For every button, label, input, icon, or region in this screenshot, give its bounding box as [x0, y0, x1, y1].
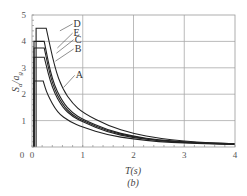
- y-tick-label: 4: [22, 36, 27, 46]
- y-tick-label: 5: [22, 10, 27, 20]
- y-tick-label: 2: [22, 89, 27, 99]
- y-tick-label: 3: [22, 63, 27, 73]
- origin-label: 0: [20, 150, 25, 160]
- x-tick-label: 4: [233, 150, 238, 160]
- x-tick-label: 2: [131, 150, 136, 160]
- x-axis-title: T(s): [125, 165, 142, 177]
- x-tick-label: 1: [81, 150, 86, 160]
- x-tick-label: 3: [182, 150, 187, 160]
- curve-label-b: B: [75, 43, 82, 54]
- y-tick-label: 1: [22, 116, 27, 126]
- figure-subtitle: (b): [127, 177, 139, 189]
- label-leader-a: [63, 75, 74, 87]
- curve-labels: DECBA: [55, 18, 83, 88]
- curve-c: [34, 48, 235, 147]
- curves: [34, 28, 235, 147]
- label-leader-d: [60, 24, 73, 31]
- y-axis-title-slash: /a: [10, 76, 21, 85]
- label-leader-e: [57, 33, 72, 48]
- label-leader-b: [55, 49, 73, 61]
- curve-label-a: A: [76, 69, 84, 80]
- grid: [32, 15, 235, 147]
- y-axis-title-sub-g: g: [16, 72, 24, 76]
- response-spectrum-chart: DECBA 01234123450 T(s) (b) Sa/ag: [0, 0, 247, 196]
- x-tick-label: 0: [30, 150, 35, 160]
- tick-labels: 01234123450: [20, 10, 238, 160]
